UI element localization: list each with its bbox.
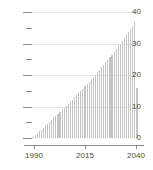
bar [80,91,81,138]
x-axis-label-2040: 2040 [127,152,145,160]
bar [99,70,100,138]
bar [82,89,83,138]
bar [118,46,119,138]
y-tick-minor [26,59,32,60]
bar [70,102,71,138]
bar [101,67,102,138]
bar-chart: 40 30 20 10 0 1990 2015 2040 [0,0,153,170]
bar [116,49,117,138]
bar [45,126,46,138]
bar [68,104,69,138]
x-tick-2015 [85,145,86,149]
y-tick-major [23,75,32,76]
bar [59,112,60,138]
bar [105,62,106,138]
bar [126,35,127,138]
y-tick-major [23,138,32,139]
bar [95,75,96,138]
y-axis-label-40: 40 [132,8,141,16]
bar [74,97,75,138]
bar [72,100,73,138]
x-tick-2040 [136,145,137,149]
y-axis-label-10: 10 [132,103,141,111]
bar [55,116,56,138]
bar [111,55,112,138]
bar [93,77,94,138]
bar [53,118,54,138]
plot-area [32,12,138,138]
bar [64,108,65,138]
bar [57,114,58,138]
bar [62,110,63,138]
y-axis-label-0: 0 [137,134,141,142]
bar [76,95,77,138]
y-tick-major [23,12,32,13]
bar [89,82,90,138]
x-tick-1990 [34,145,35,149]
bar [128,32,129,138]
bar [114,52,115,138]
bar [49,122,50,138]
bar [78,93,79,138]
y-axis [31,10,32,140]
bar [136,88,137,138]
y-axis-label-30: 30 [132,40,141,48]
bar [35,135,36,138]
bar [97,72,98,138]
bar [41,130,42,139]
bar [122,41,123,138]
bar [47,124,48,138]
x-axis-label-1990: 1990 [25,152,43,160]
y-tick-minor [26,28,32,29]
bar [87,84,88,138]
bar [51,120,52,138]
bar [37,133,38,138]
y-tick-minor [26,91,32,92]
bar [43,128,44,138]
y-tick-major [23,107,32,108]
x-axis [24,145,144,146]
y-tick-minor [26,122,32,123]
bar [103,65,104,138]
bar-series [32,12,138,138]
bar [84,86,85,138]
y-tick-major [23,44,32,45]
bar [109,57,110,138]
bar [124,38,125,138]
bar [32,137,33,138]
y-axis-label-20: 20 [132,71,141,79]
bar [120,44,121,139]
bar [66,106,67,138]
bar [39,131,40,138]
bar [91,79,92,138]
x-axis-label-2015: 2015 [76,152,94,160]
bar [107,60,108,138]
